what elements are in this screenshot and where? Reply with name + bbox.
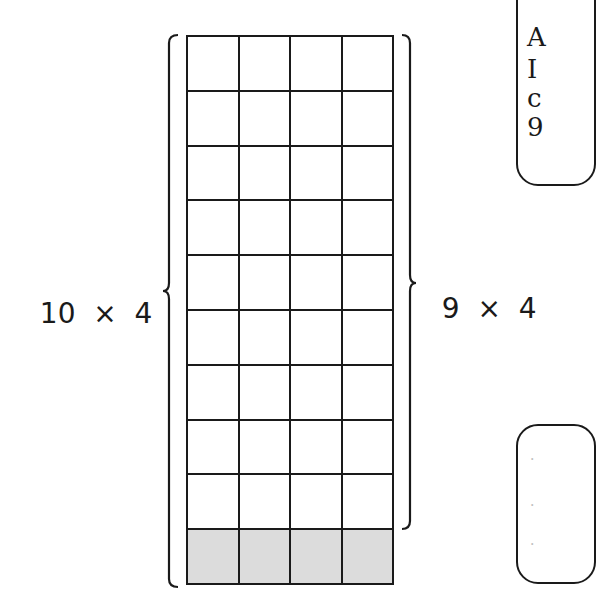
- grid-cell: [343, 201, 395, 256]
- left-expression-label: 10 × 4: [22, 272, 152, 328]
- grid-cell: [188, 421, 240, 476]
- grid-cell: [240, 311, 292, 366]
- grid-cell: [188, 147, 240, 202]
- grid-cell: [240, 147, 292, 202]
- grid-cell: [291, 366, 343, 421]
- grid-cell: [240, 475, 292, 530]
- grid-cell-shaded: [240, 530, 292, 585]
- grid-cell: [188, 475, 240, 530]
- left-factor-b: 4: [135, 297, 153, 330]
- grid-cell: [343, 421, 395, 476]
- right-expression-label: 9 × 4: [424, 267, 537, 323]
- right-factor-b: 4: [519, 292, 537, 325]
- left-factor-a: 10: [40, 297, 76, 330]
- grid-cell-shaded: [343, 530, 395, 585]
- grid-cell: [240, 92, 292, 147]
- grid-cell: [291, 311, 343, 366]
- grid-cell-shaded: [291, 530, 343, 585]
- grid-cell: [291, 421, 343, 476]
- grid-cell: [240, 201, 292, 256]
- grid-cell: [240, 256, 292, 311]
- grid-cell: [291, 92, 343, 147]
- top-callout-line-4: 9: [527, 114, 544, 140]
- grid-cell: [240, 421, 292, 476]
- grid-cell: [188, 311, 240, 366]
- grid-cell: [291, 201, 343, 256]
- grid-cell: [343, 311, 395, 366]
- grid-cell: [291, 256, 343, 311]
- grid-cell: [188, 92, 240, 147]
- grid-cell: [343, 366, 395, 421]
- grid-cell: [343, 475, 395, 530]
- top-callout-line-3: c: [527, 85, 542, 111]
- grid-cell: [240, 37, 292, 92]
- grid-cell: [343, 92, 395, 147]
- grid-cell: [188, 366, 240, 421]
- top-callout-line-1: A: [527, 24, 546, 50]
- right-factor-a: 9: [442, 292, 460, 325]
- top-callout-line-2: I: [527, 56, 537, 82]
- grid-cell: [343, 256, 395, 311]
- right-times-sign: ×: [477, 292, 500, 325]
- left-brace-icon: [160, 33, 180, 589]
- grid-cell: [343, 37, 395, 92]
- grid-cell-shaded: [188, 530, 240, 585]
- grid-cell: [291, 147, 343, 202]
- bottom-callout-line-1: ·: [530, 452, 534, 466]
- grid-cell: [343, 147, 395, 202]
- grid-cell: [188, 256, 240, 311]
- bottom-callout-line-3: ·: [530, 537, 534, 551]
- bottom-callout-line-2: ·: [530, 498, 534, 512]
- grid-cell: [291, 37, 343, 92]
- grid-cell: [188, 37, 240, 92]
- grid-cell: [291, 475, 343, 530]
- bottom-callout-box: [516, 424, 596, 584]
- grid-cell: [240, 366, 292, 421]
- left-times-sign: ×: [93, 297, 116, 330]
- array-grid: [186, 35, 394, 585]
- right-brace-icon: [400, 33, 420, 533]
- grid-cell: [188, 201, 240, 256]
